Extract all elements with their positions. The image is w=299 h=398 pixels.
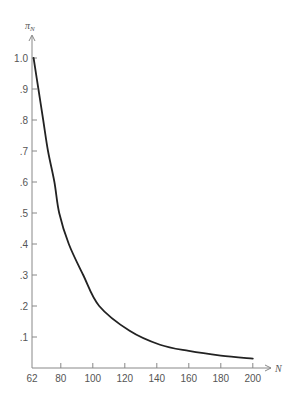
x-tick-label: 140 [148,373,165,384]
x-tick-label: 120 [116,373,133,384]
x-tick-label: 100 [84,373,101,384]
y-tick-label: .8 [20,115,29,126]
ticks: 6280100120140160180200.1.2.3.4.5.6.7.8.9… [14,53,261,384]
data-curve [34,58,253,359]
y-tick-label: .3 [20,270,29,281]
y-axis-title: πN [25,20,35,33]
x-tick-label: 180 [212,373,229,384]
chart: 6280100120140160180200.1.2.3.4.5.6.7.8.9… [0,0,299,398]
axes [29,35,271,371]
y-tick-label: .5 [20,208,29,219]
y-tick-label: .2 [20,301,29,312]
x-tick-label: 80 [55,373,67,384]
y-tick-label: .6 [20,177,29,188]
y-tick-label: 1.0 [14,53,28,64]
y-tick-label: .7 [20,146,29,157]
x-axis-title: N [274,363,283,374]
y-tick-label: .4 [20,239,29,250]
x-tick-label: 62 [26,373,38,384]
y-tick-label: .9 [20,84,29,95]
x-tick-label: 200 [244,373,261,384]
x-tick-label: 160 [180,373,197,384]
y-tick-label: .1 [20,332,29,343]
